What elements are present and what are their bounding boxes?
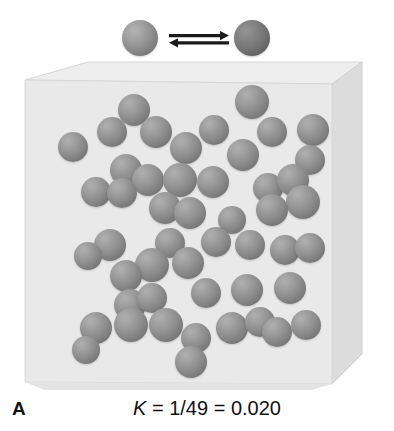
particle-sphere (74, 242, 102, 270)
particle-sphere (235, 230, 265, 260)
particle-sphere (256, 194, 288, 226)
particle-sphere (114, 308, 148, 342)
reaction-row (0, 14, 394, 66)
particle-sphere (149, 308, 183, 342)
particle-sphere (199, 115, 229, 145)
particle-sphere (227, 139, 259, 171)
particle-sphere (295, 233, 325, 263)
equilibrium-double-harpoon-icon (168, 28, 230, 50)
equation-rest: = 1/49 = 0.020 (146, 397, 281, 419)
particle-sphere (297, 114, 329, 146)
particle-sphere (286, 185, 320, 219)
particle-layer (0, 60, 394, 390)
particle-sphere (235, 85, 269, 119)
product-sphere-icon (234, 20, 270, 56)
particle-sphere (257, 117, 287, 147)
particle-sphere (170, 132, 202, 164)
equilibrium-constant-equation: K = 1/49 = 0.020 (0, 397, 394, 420)
particle-sphere (262, 317, 292, 347)
particle-sphere (72, 336, 100, 364)
particle-sphere (197, 166, 229, 198)
equilibrium-figure: A K = 1/49 = 0.020 (0, 0, 394, 431)
particle-sphere (58, 132, 88, 162)
particle-sphere (107, 178, 137, 208)
particle-sphere (97, 117, 127, 147)
reactant-sphere-icon (122, 20, 158, 56)
particle-sphere (174, 197, 206, 229)
particle-sphere (191, 278, 221, 308)
particle-sphere (140, 116, 172, 148)
particle-sphere (175, 346, 207, 378)
equation-symbol: K (133, 397, 146, 419)
particle-sphere (274, 272, 306, 304)
particle-sphere (231, 274, 263, 306)
caption-row: A K = 1/49 = 0.020 (0, 396, 394, 426)
particle-sphere (110, 260, 142, 292)
particle-sphere (172, 247, 204, 279)
particle-sphere (201, 227, 231, 257)
particle-sphere (216, 312, 248, 344)
particle-sphere (291, 310, 321, 340)
